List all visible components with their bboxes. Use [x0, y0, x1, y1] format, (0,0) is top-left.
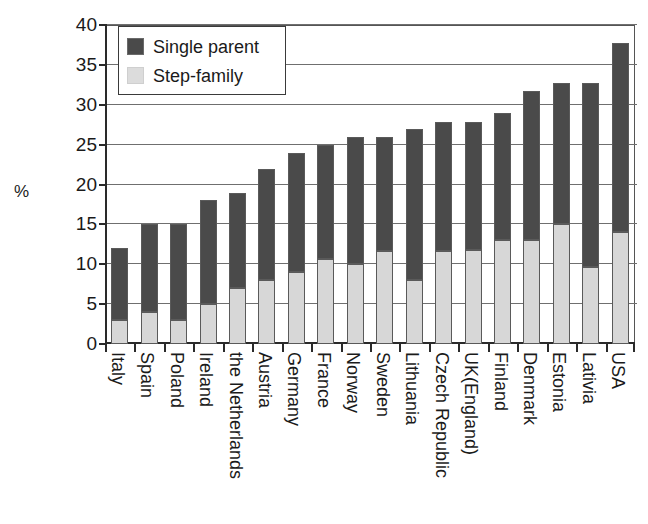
x-axis-tick — [488, 344, 490, 352]
bar-segment-single-parent[interactable] — [200, 200, 217, 304]
bar-segment-step-family[interactable] — [200, 304, 217, 344]
bar-segment-step-family[interactable] — [258, 280, 275, 344]
x-axis-tick — [606, 344, 608, 352]
bar-segment-step-family[interactable] — [376, 251, 393, 344]
legend-item-single-parent[interactable]: Single parent — [127, 32, 277, 61]
x-axis-tick — [576, 344, 578, 352]
bar-segment-single-parent[interactable] — [170, 224, 187, 320]
x-axis-tick — [105, 344, 107, 352]
bar-segment-step-family[interactable] — [494, 240, 511, 344]
x-axis-tick-label: Poland — [168, 352, 186, 408]
y-axis-tick-labels: 0510152025303540 — [53, 0, 97, 524]
bar-group[interactable] — [347, 25, 364, 344]
light-gray-swatch-icon — [127, 67, 144, 84]
y-axis-tick-label: 30 — [61, 95, 97, 114]
x-axis-tick — [134, 344, 136, 352]
bar-segment-single-parent[interactable] — [523, 91, 540, 240]
x-axis-tick-label: Austria — [256, 352, 274, 408]
dark-gray-swatch-icon — [127, 38, 144, 55]
y-axis-tick-label: 40 — [61, 15, 97, 34]
x-axis-tick — [341, 344, 343, 352]
bar-segment-step-family[interactable] — [347, 264, 364, 344]
chart-legend: Single parent Step-family — [118, 26, 286, 95]
bar-segment-step-family[interactable] — [582, 267, 599, 344]
bar-segment-step-family[interactable] — [465, 250, 482, 344]
x-axis-tick-label: Sweden — [374, 352, 392, 417]
bar-segment-single-parent[interactable] — [465, 122, 482, 250]
x-axis-tick — [252, 344, 254, 352]
bar-segment-step-family[interactable] — [317, 259, 334, 344]
bar-segment-step-family[interactable] — [523, 240, 540, 344]
x-axis-tick — [193, 344, 195, 352]
x-axis-tick-label: Ireland — [197, 352, 215, 407]
y-axis-tick-label: 35 — [61, 55, 97, 74]
bar-segment-single-parent[interactable] — [494, 113, 511, 241]
bar-group[interactable] — [523, 25, 540, 344]
bar-segment-single-parent[interactable] — [229, 193, 246, 289]
x-axis-tick-labels: ItalySpainPolandIrelandthe NetherlandsAu… — [105, 352, 635, 524]
bar-group[interactable] — [317, 25, 334, 344]
bar-group[interactable] — [406, 25, 423, 344]
bar-segment-single-parent[interactable] — [317, 145, 334, 259]
bar-segment-step-family[interactable] — [229, 288, 246, 344]
bar-segment-step-family[interactable] — [435, 251, 452, 344]
x-axis-tick — [370, 344, 372, 352]
y-axis-tick-label: 5 — [61, 294, 97, 313]
bar-segment-step-family[interactable] — [111, 320, 128, 344]
x-axis-tick-label: UK(England) — [462, 352, 480, 455]
bar-segment-step-family[interactable] — [288, 272, 305, 344]
x-axis-tick-label: Germany — [285, 352, 303, 426]
legend-label-step-family: Step-family — [153, 67, 243, 85]
bar-segment-step-family[interactable] — [141, 312, 158, 344]
bar-group[interactable] — [376, 25, 393, 344]
bar-group[interactable] — [288, 25, 305, 344]
x-axis-tick-label: France — [315, 352, 333, 408]
x-axis-tick-label: USA — [609, 352, 627, 389]
bar-group[interactable] — [553, 25, 570, 344]
x-axis-tick-label: Lativia — [580, 352, 598, 404]
bar-segment-single-parent[interactable] — [435, 122, 452, 250]
bar-segment-single-parent[interactable] — [141, 224, 158, 312]
legend-label-single-parent: Single parent — [153, 38, 259, 56]
bar-segment-single-parent[interactable] — [376, 137, 393, 251]
bar-segment-single-parent[interactable] — [553, 83, 570, 224]
bar-segment-single-parent[interactable] — [582, 83, 599, 266]
bar-segment-single-parent[interactable] — [347, 137, 364, 265]
x-axis-tick — [633, 344, 635, 352]
bar-segment-single-parent[interactable] — [111, 248, 128, 320]
y-axis-tick-label: 25 — [61, 135, 97, 154]
bar-segment-step-family[interactable] — [170, 320, 187, 344]
y-axis-tick-label: 10 — [61, 254, 97, 273]
x-axis-tick — [547, 344, 549, 352]
bar-segment-single-parent[interactable] — [258, 169, 275, 281]
y-axis-title: % — [14, 182, 29, 202]
x-axis-tick-label: Italy — [109, 352, 127, 385]
x-axis-tick — [311, 344, 313, 352]
bar-segment-single-parent[interactable] — [406, 129, 423, 281]
bar-segment-step-family[interactable] — [612, 232, 629, 344]
bar-segment-single-parent[interactable] — [288, 153, 305, 273]
bar-group[interactable] — [435, 25, 452, 344]
bar-group[interactable] — [494, 25, 511, 344]
stacked-bar-chart: % 0510152025303540 ItalySpainPolandIrela… — [0, 0, 648, 524]
x-axis-tick — [223, 344, 225, 352]
x-axis-tick-label: Finland — [492, 352, 510, 411]
x-axis-tick — [517, 344, 519, 352]
bar-segment-step-family[interactable] — [553, 224, 570, 344]
x-axis-tick — [458, 344, 460, 352]
legend-item-step-family[interactable]: Step-family — [127, 61, 277, 90]
bar-segment-step-family[interactable] — [406, 280, 423, 344]
y-axis-tick-label: 15 — [61, 214, 97, 233]
bar-segment-single-parent[interactable] — [612, 43, 629, 233]
x-axis-tick — [282, 344, 284, 352]
x-axis-tick-label: Estonia — [550, 352, 568, 412]
bar-group[interactable] — [582, 25, 599, 344]
x-axis-tick-label: Czech Republic — [433, 352, 451, 478]
bar-group[interactable] — [612, 25, 629, 344]
x-axis-tick-label: Norway — [344, 352, 362, 413]
x-axis-tick — [429, 344, 431, 352]
x-axis-tick-label: Spain — [138, 352, 156, 398]
x-axis-tick — [399, 344, 401, 352]
x-axis-tick — [164, 344, 166, 352]
bar-group[interactable] — [465, 25, 482, 344]
